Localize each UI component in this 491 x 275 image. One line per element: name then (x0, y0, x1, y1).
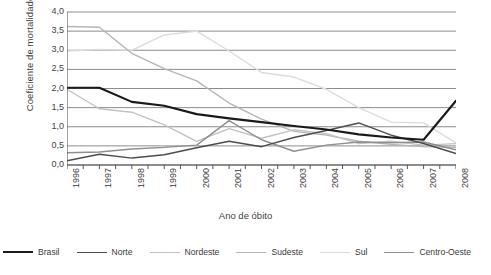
legend-item-centro-oeste[interactable]: Centro-Oeste (384, 247, 471, 257)
y-axis-tick-labels: 4,03,53,02,52,01,51,00,50,0 (36, 0, 64, 275)
x-tick-label: 1999 (168, 168, 178, 188)
legend-line-swatch (77, 252, 107, 253)
x-tick-label: 1997 (103, 168, 113, 188)
y-tick-label: 0,0 (51, 159, 64, 169)
legend-item-sul[interactable]: Sul (320, 247, 367, 257)
series-line-sudeste (67, 27, 456, 148)
y-tick-label: 4,0 (51, 6, 64, 16)
x-tick-label: 2005 (363, 168, 373, 188)
x-tick-label: 2002 (266, 168, 276, 188)
legend-label: Nordeste (185, 247, 220, 257)
plot-area (67, 11, 456, 164)
legend-label: Norte (112, 247, 133, 257)
y-tick-label: 2,5 (51, 63, 64, 73)
legend-label: Sudeste (271, 247, 303, 257)
legend-label: Sul (355, 247, 367, 257)
x-axis-title: Ano de óbito (0, 210, 491, 221)
legend-label: Centro-Oeste (419, 247, 471, 257)
y-tick-label: 0,5 (51, 140, 64, 150)
plot-svg (67, 11, 456, 172)
legend-line-swatch (320, 252, 350, 253)
mortality-line-chart: Coeficiente de mortalidade 4,03,53,02,52… (0, 0, 491, 275)
y-tick-label: 1,0 (51, 121, 64, 131)
legend-item-nordeste[interactable]: Nordeste (150, 247, 220, 257)
y-tick-label: 3,5 (51, 25, 64, 35)
chart-legend: BrasilNorteNordesteSudesteSulCentro-Oest… (0, 240, 491, 264)
legend-item-brasil[interactable]: Brasil (3, 247, 60, 257)
x-tick-label: 1998 (136, 168, 146, 188)
x-axis-tick-labels: 1996199719981999200020012002200320042005… (67, 168, 456, 208)
x-tick-label: 2001 (233, 168, 243, 188)
legend-item-sudeste[interactable]: Sudeste (236, 247, 303, 257)
legend-line-swatch (3, 251, 33, 253)
x-tick-label: 2006 (395, 168, 405, 188)
y-tick-label: 3,0 (51, 44, 64, 54)
x-tick-label: 2007 (428, 168, 438, 188)
x-tick-label: 2003 (298, 168, 308, 188)
legend-label: Brasil (38, 247, 60, 257)
y-tick-label: 2,0 (51, 83, 64, 93)
legend-line-swatch (384, 252, 414, 253)
legend-item-norte[interactable]: Norte (77, 247, 133, 257)
x-tick-label: 1996 (71, 168, 81, 188)
legend-line-swatch (150, 252, 180, 253)
x-tick-label: 2000 (201, 168, 211, 188)
legend-line-swatch (236, 252, 266, 253)
y-tick-label: 1,5 (51, 102, 64, 112)
x-tick-label: 2008 (460, 168, 470, 188)
series-line-brasil (67, 88, 456, 140)
y-axis-title: Coeficiente de mortalidade (24, 0, 35, 129)
x-tick-label: 2004 (330, 168, 340, 188)
